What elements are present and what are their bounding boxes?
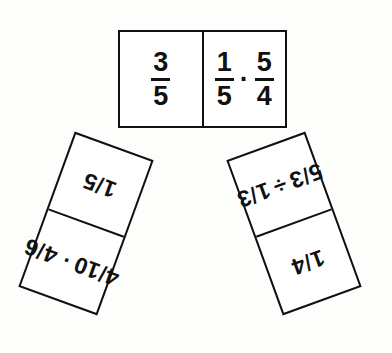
denominator: 5 xyxy=(216,83,233,110)
expression-right-upper: 1 / 4 xyxy=(289,245,328,278)
division-operator-icon: ÷ xyxy=(270,172,290,198)
numerator: 3 xyxy=(152,49,169,76)
expression-top-left: 3 5 xyxy=(151,49,170,110)
multiplication-operator-icon: · xyxy=(240,66,249,93)
domino-tile-top[interactable]: 3 5 1 5 · 5 4 xyxy=(118,30,287,128)
fraction-3-over-5: 3 5 xyxy=(151,49,170,110)
fraction-1-over-5: 1 / 5 xyxy=(81,169,120,202)
expression-top-right: 1 5 · 5 4 xyxy=(215,49,274,110)
denominator: 5 xyxy=(152,83,169,110)
fraction-1-over-3: 1 / 3 xyxy=(235,178,274,211)
fraction-4-over-10: 4 / 10 xyxy=(71,252,122,289)
fraction-4-over-6: 4 / 6 xyxy=(22,234,61,267)
multiplication-operator-icon: · xyxy=(59,247,74,271)
expression-right-lower: 5 / 3 ÷ 1 / 3 xyxy=(235,159,326,211)
fraction-domino-figure: 3 5 1 5 · 5 4 xyxy=(0,0,392,353)
fraction-1-over-5: 1 5 xyxy=(215,49,234,110)
fraction-5-over-4: 5 4 xyxy=(255,49,274,110)
domino-cell-top-right[interactable]: 1 5 · 5 4 xyxy=(202,32,286,126)
fraction-1-over-4: 1 / 4 xyxy=(289,245,328,278)
numerator: 1 xyxy=(216,49,233,76)
expression-left-lower: 1 / 5 xyxy=(81,169,120,202)
domino-cell-top-left[interactable]: 3 5 xyxy=(120,32,202,126)
domino-tile-lower-left[interactable]: 4 / 10 · 4 / 6 1 / 5 xyxy=(18,132,153,316)
domino-tile-lower-right[interactable]: 1 / 4 5 / 3 ÷ 1 / 3 xyxy=(226,132,361,316)
expression-left-upper: 4 / 10 · 4 / 6 xyxy=(22,234,122,289)
denominator: 4 xyxy=(256,83,273,110)
fraction-5-over-3: 5 / 3 xyxy=(287,159,326,192)
numerator: 5 xyxy=(256,49,273,76)
